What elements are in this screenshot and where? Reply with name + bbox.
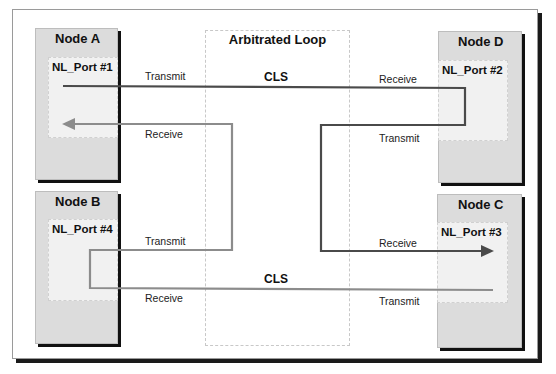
cls-top-label: CLS [264,70,288,84]
node-d-transmit-label: Transmit [379,132,419,144]
wire-a-to-d [63,86,483,251]
node-a-receive-label: Receive [145,128,183,140]
node-b-receive-label: Receive [145,292,183,304]
node-d-receive-label: Receive [379,73,417,85]
loop-wires [0,0,556,374]
arrow-into-nl-port-3 [481,245,494,257]
node-c-receive-label: Receive [379,237,417,249]
cls-bottom-label: CLS [264,272,288,286]
arrow-into-nl-port-1 [62,118,75,130]
wire-c-to-b [73,124,493,290]
node-c-transmit-label: Transmit [379,295,419,307]
node-b-transmit-label: Transmit [145,235,185,247]
node-a-transmit-label: Transmit [145,70,185,82]
